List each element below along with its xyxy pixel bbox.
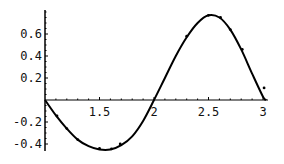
data-point xyxy=(219,16,222,19)
y-tick-label: 0.2 xyxy=(20,71,42,85)
axes xyxy=(45,10,268,151)
y-tick-label: 0.6 xyxy=(20,27,42,41)
x-tick-label: 3 xyxy=(259,105,266,119)
y-tick-label: -0.2 xyxy=(13,115,42,129)
x-tick-label: 2.5 xyxy=(198,105,220,119)
data-point xyxy=(56,115,59,118)
data-point xyxy=(76,138,79,141)
fitted-curve xyxy=(45,15,266,150)
data-point xyxy=(119,143,122,146)
tick-labels: 1.522.530.60.40.2-0.2-0.4 xyxy=(13,27,267,151)
data-point xyxy=(263,87,266,90)
data-point xyxy=(110,148,113,151)
data-point xyxy=(98,147,101,150)
data-point xyxy=(241,48,244,51)
line-plot: 1.522.530.60.40.2-0.2-0.4 xyxy=(0,0,284,164)
x-tick-label: 1.5 xyxy=(89,105,111,119)
data-point xyxy=(185,35,188,38)
data-point xyxy=(207,14,210,17)
axis-ticks xyxy=(45,12,263,144)
chart-figure: 1.522.530.60.40.2-0.2-0.4 xyxy=(0,0,284,164)
y-tick-label: -0.4 xyxy=(13,137,42,151)
data-point xyxy=(229,28,232,31)
data-point xyxy=(65,127,68,130)
y-tick-label: 0.4 xyxy=(20,49,42,63)
